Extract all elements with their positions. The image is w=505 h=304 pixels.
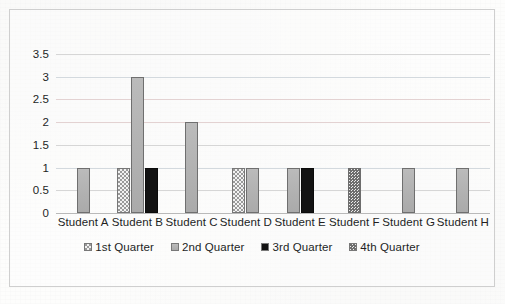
- x-axis-category-label: Student F: [327, 216, 381, 228]
- plot-area: 00.511.522.533.5: [56, 54, 490, 213]
- x-axis-category-label: Student G: [382, 216, 436, 228]
- x-axis-category-label: Student C: [165, 216, 219, 228]
- x-axis-category-label: Student D: [219, 216, 273, 228]
- bar[interactable]: [77, 168, 90, 213]
- legend-swatch-icon: [171, 243, 179, 251]
- gridline: [56, 213, 490, 214]
- bar-group: [165, 54, 219, 213]
- y-axis-tick-label: 0.5: [33, 184, 49, 196]
- legend-label: 4th Quarter: [360, 241, 419, 253]
- bar[interactable]: [145, 168, 158, 213]
- x-axis-category-labels: Student AStudent BStudent CStudent DStud…: [56, 216, 490, 234]
- chart-frame: 00.511.522.533.5 Student AStudent BStude…: [9, 9, 495, 287]
- bar-group: [436, 54, 490, 213]
- y-axis-tick-label: 2: [43, 116, 50, 128]
- bar[interactable]: [131, 77, 144, 213]
- bar-group: [219, 54, 273, 213]
- legend-item[interactable]: 3rd Quarter: [261, 241, 332, 253]
- bar-group: [56, 54, 110, 213]
- y-axis-tick-label: 1.5: [33, 139, 49, 151]
- legend-swatch-icon: [84, 243, 92, 251]
- y-axis-tick-label: 3.5: [33, 48, 49, 60]
- y-axis-tick-label: 0: [43, 207, 50, 219]
- y-axis-tick-label: 1: [43, 162, 50, 174]
- bar[interactable]: [232, 168, 245, 213]
- legend-label: 3rd Quarter: [272, 241, 332, 253]
- bar-group: [273, 54, 327, 213]
- bar[interactable]: [402, 168, 415, 213]
- chart-legend: 1st Quarter2nd Quarter3rd Quarter4th Qua…: [10, 241, 494, 253]
- y-axis-tick-label: 2.5: [33, 93, 49, 105]
- y-axis-tick-label: 3: [43, 71, 50, 83]
- bar[interactable]: [348, 168, 361, 213]
- bar[interactable]: [246, 168, 259, 213]
- x-axis-category-label: Student A: [56, 216, 110, 228]
- legend-item[interactable]: 1st Quarter: [84, 241, 154, 253]
- bar[interactable]: [117, 168, 130, 213]
- bars-layer: [56, 54, 490, 213]
- chart-page: 00.511.522.533.5 Student AStudent BStude…: [0, 0, 505, 304]
- bar[interactable]: [287, 168, 300, 213]
- x-axis-category-label: Student E: [273, 216, 327, 228]
- legend-swatch-icon: [349, 243, 357, 251]
- legend-swatch-icon: [261, 243, 269, 251]
- bar[interactable]: [301, 168, 314, 213]
- bar-group: [382, 54, 436, 213]
- x-axis-category-label: Student B: [110, 216, 164, 228]
- legend-item[interactable]: 2nd Quarter: [171, 241, 244, 253]
- legend-label: 2nd Quarter: [182, 241, 244, 253]
- bar-group: [110, 54, 164, 213]
- bar[interactable]: [456, 168, 469, 213]
- legend-label: 1st Quarter: [95, 241, 154, 253]
- x-axis-category-label: Student H: [436, 216, 490, 228]
- bar[interactable]: [185, 122, 198, 213]
- bar-group: [327, 54, 381, 213]
- legend-item[interactable]: 4th Quarter: [349, 241, 419, 253]
